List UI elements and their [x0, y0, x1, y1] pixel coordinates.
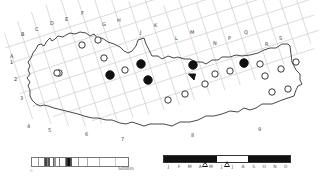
filled-circle-record-icon	[106, 71, 114, 79]
open-circle-record-icon	[182, 91, 188, 97]
altitude-band	[88, 158, 98, 166]
open-circle-record-icon	[262, 73, 268, 79]
column-label-M: M	[190, 29, 194, 35]
column-label-C: C	[35, 26, 39, 32]
row-label-8: 8	[191, 132, 194, 138]
month-label: M	[206, 164, 217, 169]
month-label: S	[248, 164, 259, 169]
altitude-band	[100, 158, 115, 166]
month-label: M	[184, 164, 195, 169]
row-label-9: 9	[258, 126, 261, 132]
column-label-H: H	[117, 17, 121, 23]
row-label-2: 2	[14, 76, 17, 82]
row-label-6: 6	[85, 131, 88, 137]
month-label: N	[270, 164, 281, 169]
open-circle-record-icon	[122, 67, 128, 73]
month-label: J	[163, 164, 174, 169]
altitude-scale	[31, 157, 129, 167]
open-circle-record-icon	[202, 81, 208, 87]
column-label-S: S	[279, 35, 282, 41]
altitude-band	[79, 158, 86, 166]
column-label-F: F	[81, 10, 84, 16]
filled-circle-record-icon	[189, 61, 197, 69]
column-label-P: P	[228, 35, 231, 41]
month-label: A	[238, 164, 249, 169]
row-label-1: 1	[10, 59, 13, 65]
open-circle-record-icon	[257, 61, 263, 67]
month-label: O	[259, 164, 270, 169]
open-circle-record-icon	[79, 42, 85, 48]
month-label: J	[227, 164, 238, 169]
row-label-3: 3	[20, 95, 23, 101]
open-circle-record-icon	[212, 71, 218, 77]
column-label-Q: Q	[244, 29, 248, 35]
altitude-zero-label: 0	[30, 168, 33, 173]
row-label-4: 4	[27, 123, 30, 129]
column-label-B: B	[21, 31, 25, 37]
open-circle-record-icon	[227, 68, 233, 74]
column-label-G: G	[102, 21, 106, 27]
month-label: J	[216, 164, 227, 169]
row-label-7: 7	[121, 136, 124, 142]
open-circle-record-icon	[101, 55, 107, 61]
month-label: A	[195, 164, 206, 169]
column-label-E: E	[65, 16, 68, 22]
open-circle-record-icon	[285, 86, 291, 92]
column-label-L: L	[175, 35, 178, 41]
open-circle-record-icon	[278, 66, 284, 72]
row-label-5: 5	[48, 127, 51, 133]
column-label-K: K	[154, 22, 158, 28]
region-outline	[27, 32, 302, 126]
altitude-scale-label: 5000m	[118, 166, 134, 171]
filled-triangle-record-icon	[189, 74, 196, 80]
altitude-band	[116, 158, 128, 166]
column-label-D: D	[50, 20, 54, 26]
open-circle-record-icon	[269, 89, 275, 95]
open-circle-record-icon	[95, 37, 101, 43]
column-label-J: J	[139, 29, 141, 35]
open-circle-record-icon	[54, 70, 60, 76]
filled-circle-record-icon	[144, 76, 152, 84]
open-circle-record-icon	[293, 59, 299, 65]
filled-circle-record-icon	[137, 60, 145, 68]
open-circle-record-icon	[165, 97, 171, 103]
month-label: D	[280, 164, 291, 169]
filled-circle-record-icon	[240, 59, 248, 67]
month-labels: JFMAMJJASOND	[163, 164, 291, 169]
column-label-R: R	[265, 41, 269, 47]
month-label: F	[174, 164, 185, 169]
column-label-N: N	[213, 40, 217, 46]
